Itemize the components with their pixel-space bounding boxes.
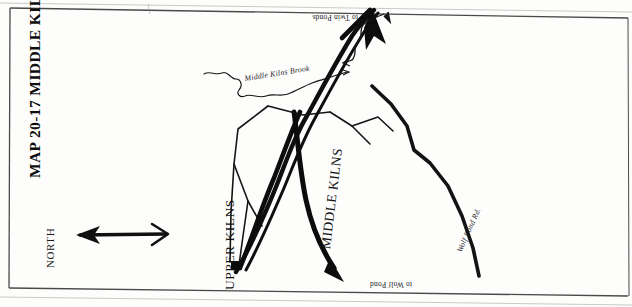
main-road-line [236, 10, 378, 272]
compass-north-label: NORTH [44, 228, 56, 268]
label-upper-kilns: UPPER KILNS [222, 199, 238, 290]
map-sheet: MAP 20-17 MIDDLE KILNS NORTH UPPER KILNS… [0, 0, 632, 307]
page-title: MAP 20-17 MIDDLE KILNS [26, 0, 44, 178]
north-arrow [76, 224, 168, 245]
label-to-wolf-pond: to Wolf Pond [370, 280, 412, 289]
sheet-border [0, 3, 632, 305]
upper-kilns-route [240, 112, 300, 268]
map-graphics [0, 0, 632, 307]
label-to-twin-ponds: to Twin Ponds [312, 13, 358, 22]
